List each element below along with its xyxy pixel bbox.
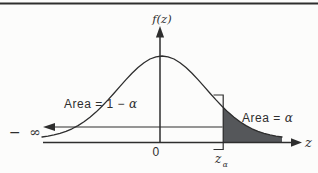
area-left-text: Area = 1 − bbox=[64, 97, 125, 111]
area-right-label: Area =α bbox=[242, 111, 293, 125]
area-left-label: Area = 1 −α bbox=[64, 97, 138, 111]
z-axis-label: z bbox=[304, 135, 312, 150]
f-axis-label: f(z) bbox=[151, 12, 171, 26]
z-alpha-subscript: α bbox=[223, 160, 228, 169]
z-alpha-base: z bbox=[214, 152, 222, 166]
alpha-symbol-right: α bbox=[285, 111, 294, 125]
area-right-text: Area = bbox=[242, 111, 281, 125]
neg-infinity-arrowhead bbox=[43, 123, 55, 131]
normal-distribution-figure: f(z) z 0 − ∞ Area = 1 −α Area =α zα bbox=[0, 0, 318, 173]
figure-canvas: f(z) z 0 − ∞ Area = 1 −α Area =α zα bbox=[0, 0, 318, 173]
f-axis-arrowhead bbox=[156, 26, 164, 38]
origin-label: 0 bbox=[152, 145, 159, 159]
z-axis-arrowhead bbox=[291, 138, 302, 146]
z-alpha-label: zα bbox=[214, 152, 228, 169]
alpha-symbol-left: α bbox=[129, 97, 138, 111]
neg-infinity-label: − ∞ bbox=[9, 124, 43, 140]
